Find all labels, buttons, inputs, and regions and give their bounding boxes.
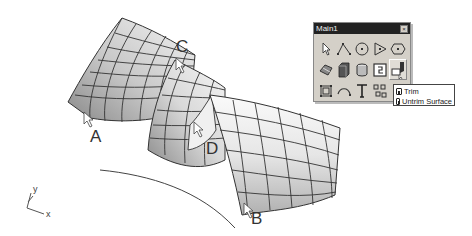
- ellipse-button[interactable]: [389, 38, 407, 59]
- trim-small-icon: [396, 88, 402, 95]
- arc-button[interactable]: [335, 80, 353, 101]
- polygon-icon: [372, 42, 388, 56]
- box-solid-icon: [336, 62, 352, 78]
- flyout-item-untrim-surface[interactable]: Untrim Surface: [396, 96, 452, 106]
- close-icon: ×: [402, 26, 406, 32]
- trim-flyout-menu: Trim Untrim Surface: [393, 84, 455, 106]
- flyout-item-trim[interactable]: Trim: [396, 86, 452, 96]
- close-button[interactable]: ×: [400, 25, 408, 33]
- ellipse-icon: [390, 42, 406, 56]
- transform-button[interactable]: [317, 80, 335, 101]
- polyline-button[interactable]: [335, 38, 353, 59]
- toolbar-titlebar[interactable]: Main1 ×: [314, 23, 410, 34]
- toolbar-title: Main1: [316, 25, 338, 33]
- text-icon: [355, 83, 369, 99]
- cylinder-solid-icon: [354, 62, 370, 78]
- callout-b: B: [251, 210, 262, 227]
- trim-icon: [390, 61, 406, 79]
- callout-a: A: [90, 128, 101, 145]
- flyout-item-label: Untrim Surface: [402, 97, 452, 106]
- mesh-button[interactable]: [371, 59, 389, 80]
- untrim-small-icon: [396, 98, 400, 105]
- text-button[interactable]: [353, 80, 371, 101]
- arc-icon: [336, 84, 352, 98]
- polyline-icon: [336, 42, 352, 56]
- flyout-item-label: Trim: [404, 87, 419, 96]
- select-button[interactable]: [317, 38, 335, 59]
- point-grid-icon: [372, 83, 388, 99]
- circle-button[interactable]: [353, 38, 371, 59]
- circle-icon: [354, 42, 370, 56]
- polygon-button[interactable]: [371, 38, 389, 59]
- surface-button[interactable]: [317, 59, 335, 80]
- cylinder-button[interactable]: [353, 59, 371, 80]
- callout-c: C: [176, 38, 188, 55]
- axis-x-label: x: [46, 210, 51, 219]
- axis-y-label: y: [33, 185, 38, 194]
- trim-button[interactable]: [389, 59, 407, 80]
- box-button[interactable]: [335, 59, 353, 80]
- point-button[interactable]: [371, 80, 389, 101]
- select-arrow-icon: [320, 42, 332, 56]
- mesh-icon: [372, 62, 388, 78]
- surface-patch-icon: [318, 63, 334, 77]
- callout-d: D: [206, 140, 218, 157]
- transform-box-icon: [318, 83, 334, 99]
